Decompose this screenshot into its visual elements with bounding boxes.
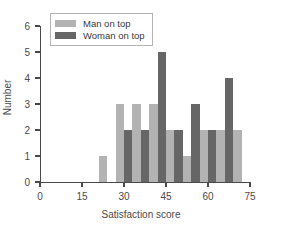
legend-label: Man on top <box>83 18 131 29</box>
histogram-bar <box>141 130 149 182</box>
y-tick-label: 1 <box>6 151 30 162</box>
plot-area <box>40 26 250 182</box>
histogram-bar <box>216 130 224 182</box>
x-tick-label: 15 <box>67 191 97 202</box>
histogram-bar <box>191 104 199 182</box>
x-tick-mark <box>165 182 166 187</box>
legend-entry: Woman on top <box>55 30 145 41</box>
x-tick-label: 0 <box>25 191 55 202</box>
histogram-bar <box>208 130 216 182</box>
y-axis-title: Number <box>2 68 13 128</box>
x-axis-title: Satisfaction score <box>0 209 282 220</box>
x-tick-mark <box>81 182 82 187</box>
y-tick-label: 5 <box>6 47 30 58</box>
histogram-bar <box>149 104 157 182</box>
x-tick-label: 75 <box>235 191 265 202</box>
x-tick-mark <box>207 182 208 187</box>
histogram-bar <box>183 156 191 182</box>
legend-entry: Man on top <box>55 18 145 29</box>
histogram-bar <box>124 130 132 182</box>
chart-legend: Man on topWoman on top <box>50 13 153 46</box>
x-tick-label: 60 <box>193 191 223 202</box>
legend-swatch <box>55 32 76 39</box>
histogram-chart: 0123456 01530456075 Satisfaction score N… <box>0 0 282 234</box>
histogram-bar <box>158 52 166 182</box>
legend-label: Woman on top <box>83 30 145 41</box>
histogram-bar <box>132 104 140 182</box>
histogram-bar <box>200 130 208 182</box>
histogram-bar <box>99 156 107 182</box>
x-tick-mark <box>39 182 40 187</box>
y-tick-label: 0 <box>6 177 30 188</box>
y-tick-label: 6 <box>6 21 30 32</box>
legend-swatch <box>55 20 76 27</box>
x-tick-mark <box>123 182 124 187</box>
histogram-bar <box>225 78 233 182</box>
histogram-bar <box>174 130 182 182</box>
x-tick-label: 30 <box>109 191 139 202</box>
histogram-bar <box>116 104 124 182</box>
histogram-bar <box>233 130 241 182</box>
x-tick-mark <box>249 182 250 187</box>
histogram-bar <box>166 130 174 182</box>
x-tick-label: 45 <box>151 191 181 202</box>
